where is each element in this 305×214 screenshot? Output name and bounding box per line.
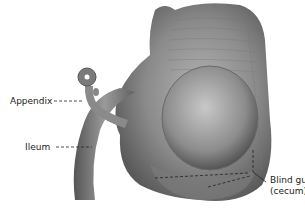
label-cecum-line2: (cecum): [270, 186, 305, 197]
label-ileum: Ileum: [25, 142, 50, 153]
intestine-illustration: [0, 0, 305, 214]
cecum-bulb: [162, 66, 258, 170]
label-cecum: Blind gut (cecum): [270, 175, 305, 197]
label-cecum-line1: Blind gut: [270, 175, 305, 186]
label-appendix: Appendix: [10, 96, 52, 107]
